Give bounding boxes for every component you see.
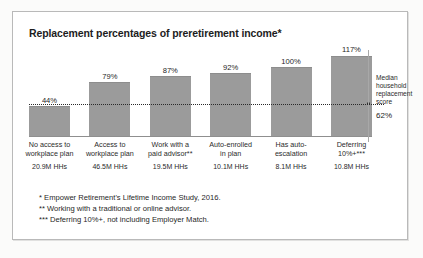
median-annotation-line1: Median household — [376, 74, 422, 90]
category-label: Has auto-escalation — [267, 140, 315, 158]
bar-chart: 44% 79% 87% 92% 100% — [29, 50, 372, 170]
bar-column[interactable]: 87% — [150, 50, 191, 136]
bar[interactable] — [29, 106, 70, 136]
household-count: 46.5M HHs — [86, 163, 134, 170]
category-label: Deferring 10%+*** — [327, 140, 375, 158]
footnote: *** Deferring 10%+, not including Employ… — [39, 214, 359, 225]
bar-value-label: 92% — [210, 63, 251, 72]
footnote: ** Working with a traditional or online … — [39, 203, 359, 214]
bar-column[interactable]: 100% — [271, 50, 312, 136]
x-axis-tick: Work with a paid advisor** 19.5M HHs — [146, 140, 194, 170]
household-count: 8.1M HHs — [267, 163, 315, 170]
median-annotation-line2: replacement score — [376, 90, 422, 106]
household-count: 10.1M HHs — [207, 163, 255, 170]
median-annotation: Median household replacement score 62% — [376, 74, 422, 120]
category-label: Auto-enrolled in plan — [207, 140, 255, 158]
plot-area: 44% 79% 87% 92% 100% — [29, 50, 372, 136]
bar-value-label: 117% — [331, 45, 372, 54]
x-axis-tick: Auto-enrolled in plan 10.1M HHs — [207, 140, 255, 170]
household-count: 20.9M HHs — [26, 163, 74, 170]
bar[interactable] — [271, 67, 312, 136]
annotation-divider — [368, 50, 369, 142]
axis-baseline — [29, 136, 372, 137]
x-axis-tick: Access to workplace plan 46.5M HHs — [86, 140, 134, 170]
category-label: Work with a paid advisor** — [146, 140, 194, 158]
bar[interactable] — [331, 56, 372, 137]
x-axis-labels: No access to workplace plan 20.9M HHs Ac… — [29, 140, 372, 170]
median-reference-line — [29, 104, 384, 105]
bar-column[interactable]: 117% — [331, 50, 372, 136]
bar-column[interactable]: 44% — [29, 50, 70, 136]
bar-column[interactable]: 92% — [210, 50, 251, 136]
bar[interactable] — [150, 76, 191, 136]
category-label: No access to workplace plan — [26, 140, 74, 158]
bar-value-label: 100% — [271, 57, 312, 66]
chart-card: Replacement percentages of preretirement… — [12, 11, 408, 240]
page-title: Replacement percentages of preretirement… — [29, 27, 282, 39]
x-axis-tick: Deferring 10%+*** 10.8M HHs — [327, 140, 375, 170]
bar-value-label: 79% — [89, 72, 130, 81]
bar[interactable] — [89, 82, 130, 136]
median-annotation-value: 62% — [376, 111, 422, 120]
x-axis-tick: No access to workplace plan 20.9M HHs — [26, 140, 74, 170]
footnote: * Empower Retirement's Lifetime Income S… — [39, 192, 359, 203]
bar-column[interactable]: 79% — [89, 50, 130, 136]
footnotes: * Empower Retirement's Lifetime Income S… — [39, 192, 359, 226]
bar-value-label: 87% — [150, 66, 191, 75]
category-label: Access to workplace plan — [86, 140, 134, 158]
household-count: 19.5M HHs — [146, 163, 194, 170]
x-axis-tick: Has auto-escalation 8.1M HHs — [267, 140, 315, 170]
household-count: 10.8M HHs — [327, 163, 375, 170]
bar-series: 44% 79% 87% 92% 100% — [29, 50, 372, 136]
